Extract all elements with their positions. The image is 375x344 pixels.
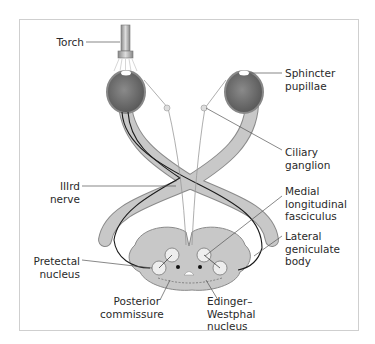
label-ciliary-ganglion: Ciliary ganglion [285, 146, 330, 171]
left-eye-icon [107, 71, 145, 114]
midbrain-section [129, 227, 250, 290]
label-third-nerve: IIIrd nerve [30, 180, 80, 205]
left-ciliary-ganglion [164, 105, 170, 111]
label-medial-longitudinal-fasciculus: Medial longitudinal fasciculus [285, 185, 347, 223]
label-torch: Torch [30, 36, 84, 49]
label-edinger-westphal-nucleus: Edinger– Westphal nucleus [207, 295, 256, 333]
label-pretectal-nucleus: Pretectal nucleus [22, 255, 80, 280]
label-lateral-geniculate-body: Lateral geniculate body [285, 230, 340, 268]
label-posterior-commissure: Posterior commissure [100, 295, 160, 320]
label-sphincter-pupillae: Sphincter pupillae [285, 67, 335, 92]
torch-icon [114, 25, 137, 71]
pupillary-reflex-diagram [0, 0, 375, 344]
right-eye-icon [225, 71, 263, 114]
